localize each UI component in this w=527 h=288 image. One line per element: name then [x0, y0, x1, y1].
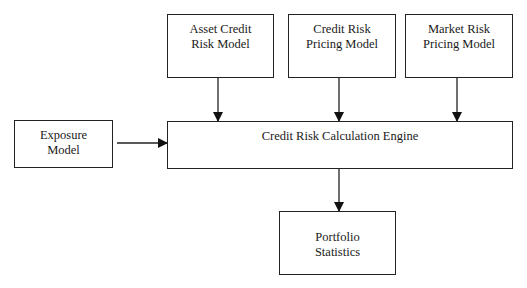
portfolio-statistics-box: Portfolio Statistics: [279, 211, 396, 275]
asset-credit-risk-model-box: Asset Credit Risk Model: [167, 14, 274, 78]
asset-credit-risk-model-line1: Asset Credit: [168, 22, 273, 37]
portfolio-statistics-line2: Statistics: [280, 245, 395, 260]
exposure-model-line1: Exposure: [15, 128, 112, 143]
market-risk-pricing-model-line2: Pricing Model: [406, 37, 512, 52]
asset-credit-risk-model-line2: Risk Model: [168, 37, 273, 52]
credit-risk-pricing-model-line2: Pricing Model: [289, 37, 395, 52]
credit-risk-pricing-model-line1: Credit Risk: [289, 22, 395, 37]
exposure-model-line2: Model: [15, 143, 112, 158]
credit-risk-pricing-model-box: Credit Risk Pricing Model: [288, 14, 396, 78]
portfolio-statistics-line1: Portfolio: [280, 230, 395, 245]
calculation-engine-box: Credit Risk Calculation Engine: [167, 121, 513, 169]
exposure-model-box: Exposure Model: [14, 120, 113, 168]
market-risk-pricing-model-line1: Market Risk: [406, 22, 512, 37]
calculation-engine-label: Credit Risk Calculation Engine: [168, 129, 512, 144]
market-risk-pricing-model-box: Market Risk Pricing Model: [405, 14, 513, 78]
